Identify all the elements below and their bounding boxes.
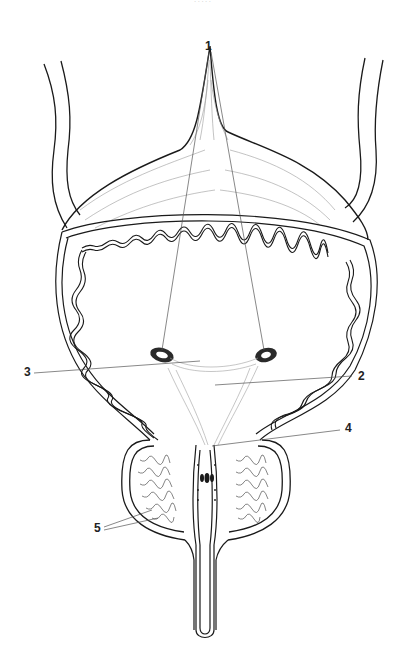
leader-lines <box>34 52 352 530</box>
label-3: 3 <box>24 366 31 378</box>
trigone-hatching <box>168 358 258 445</box>
leader-2 <box>215 376 352 385</box>
label-4: 4 <box>345 422 352 434</box>
label-5: 5 <box>94 522 101 534</box>
bladder-prostate-illustration <box>0 0 402 651</box>
right-ureter <box>345 58 383 222</box>
ureteric-orifices <box>149 345 279 365</box>
prostate <box>122 440 291 540</box>
leader-1a <box>162 52 209 350</box>
leader-3 <box>34 361 200 373</box>
leader-4 <box>212 430 340 446</box>
left-ureter <box>44 61 80 228</box>
verumontanum <box>197 464 216 501</box>
label-1: 1 <box>205 40 212 52</box>
detrusor-fiber-hatching <box>80 60 335 228</box>
bladder-mucosa <box>70 223 360 440</box>
label-2: 2 <box>358 370 365 382</box>
leader-1b <box>211 52 264 350</box>
prostate-glandular-texture <box>138 455 268 523</box>
